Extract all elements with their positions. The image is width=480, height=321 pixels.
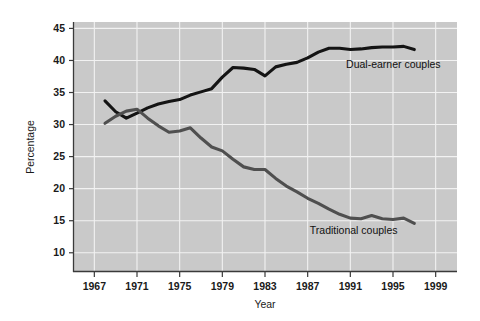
y-tick-label: 35 — [53, 86, 65, 98]
x-axis-tick-labels: 196719711975197919831987199119951999 — [83, 280, 448, 292]
x-tick-label: 1983 — [253, 280, 277, 292]
traditional-series-label: Traditional couples — [310, 224, 398, 236]
x-tick-label: 1967 — [83, 280, 107, 292]
x-tick-label: 1987 — [296, 280, 320, 292]
y-tick-label: 45 — [53, 22, 65, 34]
line-chart: 1015202530354045 19671971197519791983198… — [0, 0, 480, 321]
y-tick-label: 10 — [53, 246, 65, 258]
y-tick-label: 25 — [53, 150, 65, 162]
y-tick-label: 20 — [53, 182, 65, 194]
x-tick-label: 1991 — [339, 280, 363, 292]
x-tick-label: 1971 — [125, 280, 149, 292]
x-tick-label: 1979 — [211, 280, 235, 292]
x-tick-label: 1975 — [168, 280, 192, 292]
x-tick-label: 1995 — [381, 280, 405, 292]
dual-earner-series-label: Dual-earner couples — [346, 58, 441, 70]
x-axis-title: Year — [254, 298, 276, 310]
chart-figure: 1015202530354045 19671971197519791983198… — [0, 0, 480, 321]
y-axis-title: Percentage — [24, 120, 36, 174]
y-tick-label: 40 — [53, 54, 65, 66]
y-tick-label: 15 — [53, 214, 65, 226]
y-tick-label: 30 — [53, 118, 65, 130]
x-tick-label: 1999 — [424, 280, 448, 292]
